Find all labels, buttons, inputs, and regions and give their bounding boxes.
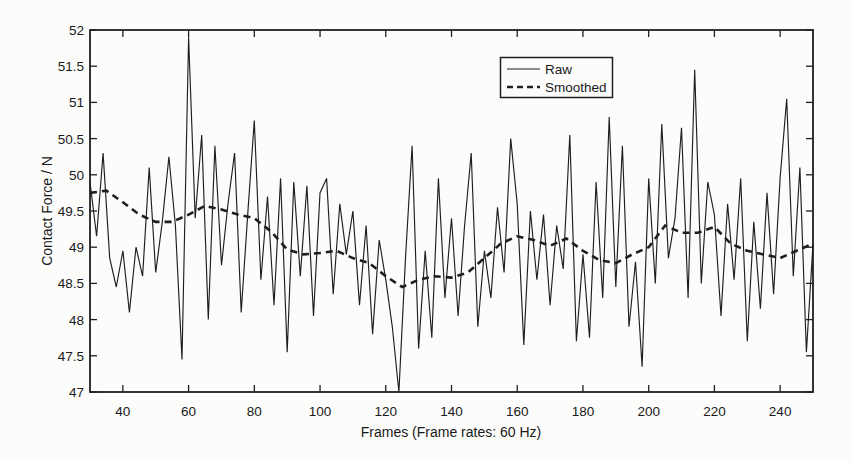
raw-series-line [90,37,813,392]
y-tick-label: 50 [69,168,84,183]
y-tick-label: 47 [69,385,84,400]
contact-force-chart: 406080100120140160180200220240 4747.5484… [0,0,852,462]
y-tick-label: 47.5 [58,349,84,364]
x-tick-label: 180 [572,404,595,419]
plot-box [90,30,813,392]
y-tick-label: 50.5 [58,132,84,147]
y-tick-label: 49 [69,240,84,255]
x-tick-label: 80 [247,404,262,419]
y-axis-title: Contact Force / N [39,156,55,266]
x-tick-label: 140 [440,404,463,419]
y-tick-label: 49.5 [58,204,84,219]
x-tick-label: 220 [703,404,726,419]
x-tick-label: 240 [769,404,792,419]
x-tick-label: 60 [181,404,196,419]
x-tick-label: 40 [115,404,130,419]
y-tick-label: 52 [69,23,84,38]
legend-smoothed-label: Smoothed [545,80,607,95]
x-tick-label: 200 [637,404,660,419]
y-tick-label: 48 [69,313,84,328]
x-tick-label: 100 [309,404,332,419]
y-tick-labels: 4747.54848.54949.55050.55151.552 [58,23,84,400]
legend: Raw Smoothed [501,58,613,98]
x-tick-label: 120 [375,404,398,419]
legend-raw-label: Raw [545,62,572,77]
y-tick-label: 48.5 [58,276,84,291]
x-tick-label: 160 [506,404,529,419]
y-tick-label: 51.5 [58,59,84,74]
x-tick-labels: 406080100120140160180200220240 [115,404,791,419]
figure-canvas: 406080100120140160180200220240 4747.5484… [0,0,852,462]
data-series [90,37,813,392]
y-tick-label: 51 [69,95,84,110]
axis-ticks [90,30,813,392]
x-axis-title: Frames (Frame rates: 60 Hz) [361,424,541,440]
